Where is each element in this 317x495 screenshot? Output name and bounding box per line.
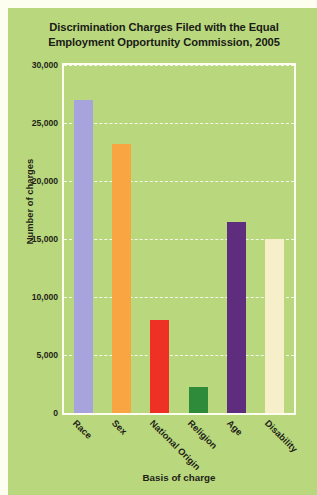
bar-age: [227, 222, 246, 413]
chart-title-line-2: Employment Opportunity Commission, 2005: [22, 35, 306, 50]
x-tick-label-race: Race: [71, 418, 94, 441]
bar-national-origin: [150, 320, 169, 413]
y-tick-label: 5,000: [10, 350, 58, 360]
bar-race: [74, 100, 93, 413]
chart-figure: Discrimination Charges Filed with the Eq…: [0, 0, 317, 495]
y-tick-label: 25,000: [10, 118, 58, 128]
plot-area: [62, 63, 296, 415]
x-tick-label-age: Age: [224, 418, 244, 438]
bar-religion: [189, 387, 208, 413]
chart-title: Discrimination Charges Filed with the Eq…: [22, 20, 306, 50]
y-tick-label: 10,000: [10, 292, 58, 302]
y-tick-label: 0: [10, 408, 58, 418]
gridline: [64, 65, 294, 67]
x-tick-label-sex: Sex: [109, 418, 128, 437]
bar-sex: [112, 144, 131, 413]
chart-title-line-1: Discrimination Charges Filed with the Eq…: [22, 20, 306, 35]
x-tick-label-disability: Disability: [263, 418, 299, 454]
x-tick-label-religion: Religion: [186, 418, 219, 451]
gridline: [64, 297, 294, 299]
y-axis-label: Number of charges: [24, 137, 35, 267]
gridline: [64, 181, 294, 183]
gridline: [64, 123, 294, 125]
plot-inner: [64, 65, 294, 413]
gridline: [64, 355, 294, 357]
y-tick-label: 30,000: [10, 60, 58, 70]
chart-panel: Discrimination Charges Filed with the Eq…: [8, 8, 317, 495]
bar-disability: [265, 239, 284, 413]
gridline: [64, 239, 294, 241]
x-axis-label: Basis of charge: [62, 472, 296, 483]
